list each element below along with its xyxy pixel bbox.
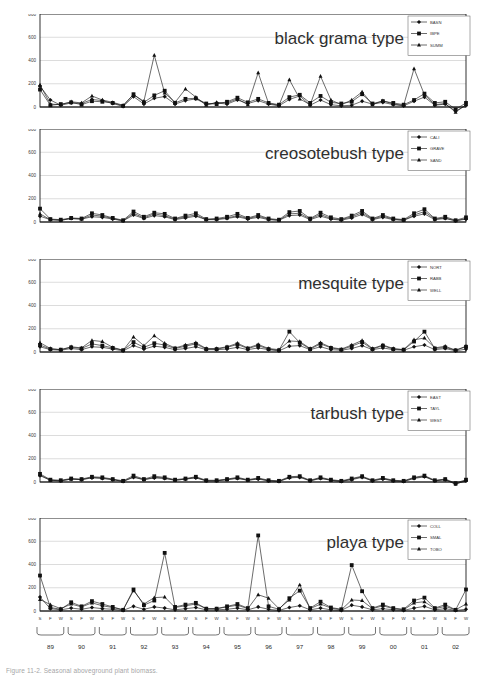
- legend-label-BASN: BASN: [430, 20, 441, 25]
- year-bracket: [224, 627, 251, 635]
- y-axis-tick-label: 600: [28, 150, 36, 155]
- year-bracket: [349, 627, 376, 635]
- season-tick-label: W: [402, 616, 407, 621]
- chart-panel-mesquite-type: 0200400600800mesquite typeNORTRABBWELL: [0, 259, 482, 362]
- year-axis-label: 91: [109, 643, 116, 650]
- y-axis-tick-label: 200: [28, 81, 36, 86]
- series-SAND: [38, 209, 468, 222]
- y-axis-tick-label: 800: [28, 259, 36, 262]
- chart-title: black grama type: [275, 29, 404, 48]
- y-axis-tick-label: 600: [28, 410, 36, 415]
- season-tick-label: S: [163, 616, 166, 621]
- y-axis-tick-label: 400: [28, 562, 36, 567]
- year-bracket: [442, 627, 469, 635]
- y-axis-tick-label: 800: [28, 129, 36, 132]
- year-axis-label: 02: [452, 643, 459, 650]
- y-axis-tick-label: 200: [28, 456, 36, 461]
- y-axis-tick-label: 400: [28, 303, 36, 308]
- y-axis-tick-label: 600: [28, 35, 36, 40]
- y-axis-tick-label: 200: [28, 196, 36, 201]
- season-tick-label: S: [444, 616, 447, 621]
- season-tick-label: S: [381, 616, 384, 621]
- season-tick-label: F: [143, 616, 146, 621]
- y-axis-tick-label: 600: [28, 280, 36, 285]
- chart-svg: 0200400600800black grama typeBASNIBPESUM…: [0, 14, 482, 117]
- season-tick-label: F: [174, 616, 177, 621]
- season-tick-label: W: [215, 616, 220, 621]
- year-axis-label: 92: [140, 643, 147, 650]
- year-bracket: [411, 627, 438, 635]
- year-axis-label: 95: [234, 643, 241, 650]
- year-bracket: [286, 627, 313, 635]
- season-tick-label: F: [80, 616, 83, 621]
- figure-panel-stack: 0200400600800black grama typeBASNIBPESUM…: [0, 0, 482, 675]
- year-axis-label: 01: [421, 643, 428, 650]
- series-TOBO: [38, 583, 468, 612]
- season-tick-label: W: [121, 616, 126, 621]
- year-axis-label: 99: [359, 643, 366, 650]
- chart-title: tarbush type: [310, 404, 404, 423]
- chart-title: playa type: [327, 533, 405, 552]
- series-markers: [38, 583, 468, 612]
- year-axis-label: 98: [327, 643, 334, 650]
- legend-label-SUMM: SUMM: [430, 43, 443, 48]
- season-tick-label: S: [319, 616, 322, 621]
- y-axis-tick-label: 0: [33, 609, 36, 614]
- y-axis-tick-label: 0: [33, 350, 36, 355]
- season-tick-label: S: [226, 616, 229, 621]
- year-bracket: [131, 627, 158, 635]
- series-markers: [38, 209, 468, 222]
- season-tick-label: F: [111, 616, 114, 621]
- season-tick-label: W: [246, 616, 251, 621]
- figure-caption: Figure 11-2. Seasonal aboveground plant …: [6, 667, 158, 674]
- legend-label-WEST: WEST: [430, 418, 443, 423]
- year-axis-label: 00: [390, 643, 397, 650]
- season-tick-label: S: [132, 616, 135, 621]
- y-axis-tick-label: 800: [28, 14, 36, 17]
- season-tick-label: F: [236, 616, 239, 621]
- legend-marker-TAYL: [417, 407, 421, 411]
- chart-panel-playa-type: 0200400600800playa typeCOLLSMALTOBOSFWSF…: [0, 518, 482, 669]
- year-axis-label: 94: [203, 643, 210, 650]
- season-tick-label: F: [49, 616, 52, 621]
- season-tick-label: F: [267, 616, 270, 621]
- year-bracket: [380, 627, 407, 635]
- chart-svg: 0200400600800mesquite typeNORTRABBWELL: [0, 259, 482, 362]
- y-axis-tick-label: 400: [28, 173, 36, 178]
- y-axis-tick-label: 800: [28, 389, 36, 392]
- y-axis-tick-label: 200: [28, 585, 36, 590]
- legend-label-TAYL: TAYL: [430, 406, 441, 411]
- legend-marker-GRAVE: [417, 147, 421, 151]
- y-axis-tick-label: 800: [28, 518, 36, 521]
- series-SUMM: [38, 53, 468, 114]
- season-tick-label: S: [288, 616, 291, 621]
- chart-title: mesquite type: [298, 274, 404, 293]
- season-tick-label: W: [152, 616, 157, 621]
- year-bracket: [193, 627, 220, 635]
- chart-title: creosotebush type: [265, 144, 404, 163]
- legend-marker-RABB: [417, 277, 421, 281]
- year-bracket: [68, 627, 95, 635]
- season-tick-label: W: [90, 616, 95, 621]
- season-tick-label: W: [277, 616, 282, 621]
- chart-svg: 0200400600800creosotebush typeCALIGRAVES…: [0, 129, 482, 232]
- y-axis-tick-label: 600: [28, 539, 36, 544]
- y-axis-tick-label: 0: [33, 480, 36, 485]
- year-axis-label: 90: [78, 643, 85, 650]
- chart-svg: 0200400600800tarbush typeEASTTAYLWEST: [0, 389, 482, 492]
- legend-label-NORT: NORT: [430, 265, 442, 270]
- season-tick-label: S: [413, 616, 416, 621]
- season-tick-label: W: [339, 616, 344, 621]
- y-axis-tick-label: 0: [33, 220, 36, 225]
- season-tick-label: W: [433, 616, 438, 621]
- legend-label-GRAVE: GRAVE: [430, 146, 445, 151]
- legend-marker-SMAL: [417, 536, 421, 540]
- season-tick-label: W: [370, 616, 375, 621]
- year-axis-label: 97: [296, 643, 303, 650]
- year-bracket: [318, 627, 345, 635]
- y-axis-tick-label: 200: [28, 326, 36, 331]
- series-markers: [38, 53, 468, 114]
- year-axis-label: 96: [265, 643, 272, 650]
- season-tick-label: S: [101, 616, 104, 621]
- season-tick-label: F: [423, 616, 426, 621]
